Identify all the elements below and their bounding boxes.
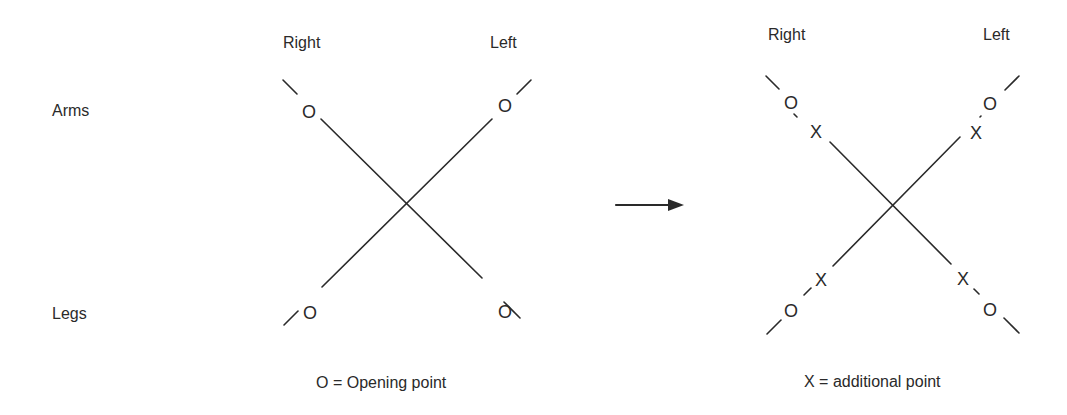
marker-additional-left-arm: X: [970, 123, 982, 143]
arrow-head-icon: [668, 199, 684, 211]
marker-opening-right-leg-2: O: [784, 301, 798, 321]
marker-opening-right-leg: O: [303, 303, 317, 323]
marker-opening-left-leg: O: [498, 302, 512, 322]
left-diagonal-ul-lr: [283, 80, 520, 318]
left-diagonal-ur-ll: [284, 80, 531, 325]
marker-additional-right-leg: X: [815, 270, 827, 290]
marker-additional-right-arm: X: [810, 122, 822, 142]
marker-opening-left-arm: O: [498, 96, 512, 116]
marker-opening-left-leg-2: O: [983, 300, 997, 320]
diagram-canvas: O O O O O X O X O X O X: [0, 0, 1067, 415]
marker-opening-left-arm-2: O: [983, 94, 997, 114]
marker-opening-right-arm-2: O: [784, 93, 798, 113]
right-diagonal-ur-ll: [767, 76, 1019, 334]
marker-opening-right-arm: O: [302, 102, 316, 122]
marker-additional-left-leg: X: [957, 269, 969, 289]
